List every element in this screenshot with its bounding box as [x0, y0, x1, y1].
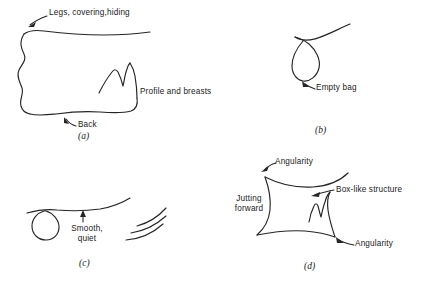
annotation-legs-covering-hiding: Legs, covering,hiding — [49, 8, 130, 18]
annotation-profile-and-breasts: Profile and breasts — [140, 87, 211, 97]
profile-breasts-shape-a — [99, 63, 130, 93]
annotation-smooth-line1: Smooth, — [71, 224, 103, 233]
legs-leader-line-a — [30, 16, 47, 25]
bag-tail-b — [295, 24, 350, 40]
annotation-jutting-line1: Jutting — [236, 194, 261, 203]
annotation-smooth: Smooth, quiet — [65, 224, 109, 244]
annotation-jutting-forward: Jutting forward — [227, 194, 271, 214]
annotation-empty-bag: Empty bag — [316, 83, 357, 93]
right-side-a — [130, 63, 137, 98]
panel-label-d: (d) — [304, 261, 315, 271]
speed-line-2-c — [131, 216, 166, 233]
panel-a: Legs, covering,hiding Profile and breast… — [0, 0, 217, 140]
figure-container: Legs, covering,hiding Profile and breast… — [0, 0, 434, 281]
annotation-smooth-line2: quiet — [78, 234, 97, 243]
annotation-angularity-top: Angularity — [275, 157, 313, 167]
bottom-side-a — [30, 98, 137, 115]
annotation-jutting-line2: forward — [235, 204, 263, 213]
angularity-bottom-arrowhead-d — [336, 237, 344, 243]
speed-line-3-c — [126, 224, 163, 240]
box-like-arrowhead-d — [311, 192, 320, 197]
panel-label-c: (c) — [79, 258, 90, 268]
panel-label-b: (b) — [315, 125, 326, 135]
panel-c-drawing — [0, 140, 217, 281]
legs-arrowhead-a — [28, 22, 36, 27]
panel-c: Smooth, quiet (c) — [0, 140, 217, 281]
panel-a-drawing — [0, 0, 217, 140]
annotation-box-like-structure: Box-like structure — [336, 185, 402, 195]
inner-zigzag-d — [309, 192, 330, 222]
blob-bottom-edge-d — [257, 231, 335, 237]
speed-line-1-c — [137, 208, 166, 226]
head-loop-c — [32, 211, 59, 240]
panel-d: Angularity Box-like structure Jutting fo… — [217, 140, 434, 281]
body-outline-a — [24, 31, 150, 35]
blob-right-edge-d — [328, 192, 335, 237]
back-arrowhead-a — [64, 117, 69, 124]
left-side-wavy-a — [18, 34, 30, 114]
annotation-back: Back — [78, 120, 97, 130]
bag-loop-b — [292, 37, 319, 81]
panel-b: Empty bag (b) — [217, 0, 434, 140]
panel-b-drawing — [217, 0, 434, 140]
smooth-sweep-c — [27, 198, 130, 213]
annotation-angularity-bottom: Angularity — [355, 239, 393, 249]
